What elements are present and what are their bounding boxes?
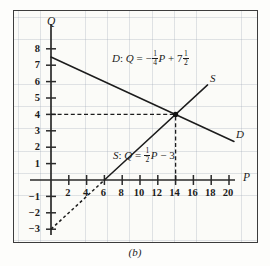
y-tick-label-neg1: −1 [19,192,40,203]
x-tick-label-10: 10 [132,188,146,199]
x-tick-label-2: 2 [61,188,75,199]
demand-eq-lhs: Q [126,52,134,64]
y-tick-label-4: 4 [26,110,40,121]
supply-eq-slope-denominator: 2 [144,156,150,164]
y-axis-label: Q [47,16,55,28]
x-tick-label-4: 4 [79,188,93,199]
demand-eq-intercept-denominator: 2 [183,59,189,67]
demand-eq-sign: − [145,52,151,64]
x-tick-label-20: 20 [221,188,235,199]
supply-equation: S: Q = 12P − 3 [113,147,175,164]
x-tick-label-16: 16 [185,188,199,199]
figure-caption: (b) [0,246,270,258]
supply-eq-slope-fraction: 12 [144,147,150,164]
x-tick-label-18: 18 [203,188,217,199]
y-tick-label-7: 7 [26,60,40,71]
y-tick-label-6: 6 [26,77,40,88]
supply-curve-label: S [210,73,216,84]
demand-eq-equals: = [136,52,142,64]
demand-curve-label: D [236,129,244,140]
y-tick-label-neg2: −2 [19,208,40,219]
x-tick-label-8: 8 [114,188,128,199]
y-tick-label-2: 2 [26,142,40,153]
supply-eq-minus: − [160,149,166,161]
demand-curve [51,57,234,142]
y-tick-label-5: 5 [26,93,40,104]
supply-eq-variable: P [151,149,158,161]
x-tick-label-12: 12 [150,188,164,199]
plot-canvas [13,10,258,243]
x-tick-label-14: 14 [168,188,182,199]
y-tick-label-8: 8 [26,44,40,55]
x-axis-label: P [243,172,250,184]
x-tick-label-6: 6 [96,188,110,199]
demand-eq-plus: + [168,52,174,64]
figure-container: 8 7 6 5 4 3 2 1 −1 −2 −3 2 4 6 8 10 12 1… [0,0,270,266]
demand-eq-intercept-fraction: 12 [183,50,189,67]
y-tick-label-3: 3 [26,126,40,137]
demand-eq-intercept-whole: 7 [177,53,183,64]
supply-eq-constant: 3 [169,149,175,161]
supply-eq-equals: = [135,149,141,161]
demand-eq-variable: P [158,52,165,64]
demand-eq-name: D [112,52,120,64]
y-tick-label-neg3: −3 [19,224,40,235]
demand-eq-colon: : [120,52,123,64]
supply-curve [104,85,207,180]
equilibrium-point [173,112,178,117]
supply-eq-lhs: Q [124,149,132,161]
supply-eq-colon: : [119,149,122,161]
demand-equation: D: Q = −14P + 712 [112,50,189,67]
y-tick-label-1: 1 [26,159,40,170]
